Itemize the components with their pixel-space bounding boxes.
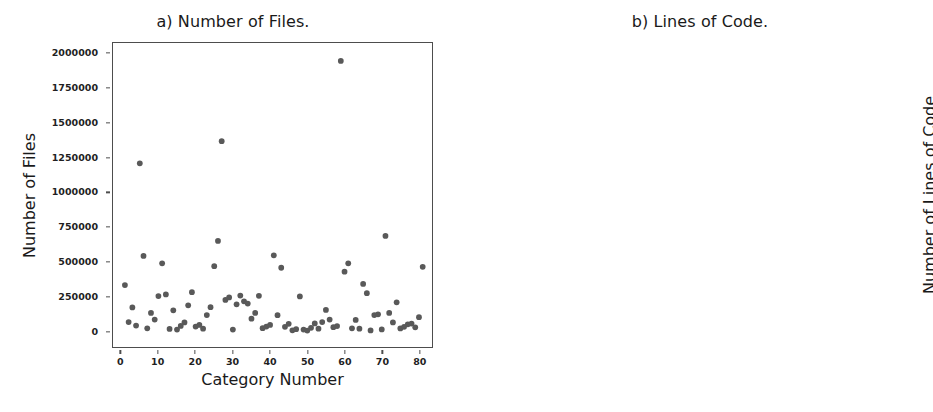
panel-a-number-of-files: a) Number of Files. 02500005000007500001… [0,0,466,412]
scatter-point [256,293,262,299]
y-tick-mark [106,261,110,262]
y-tick-mark [106,52,110,53]
y-tick-mark [106,227,110,228]
x-tick-mark [382,350,383,354]
scatter-point [345,260,351,266]
scatter-point [420,264,426,270]
scatter-point [349,325,355,331]
x-tick-label: 30 [226,357,239,367]
scatter-point [275,312,281,318]
scatter-point [208,304,214,310]
scatter-point [368,328,374,334]
scatter-point [416,314,422,320]
x-tick-label: 40 [263,357,276,367]
scatter-point [144,325,150,331]
x-tick-mark [194,350,195,354]
scatter-point [375,311,381,317]
scatter-point [182,320,188,326]
scatter-point [133,323,139,329]
panel-a-y-axis-label: Number of Files [22,133,38,258]
scatter-point [215,238,221,244]
scatter-point [226,295,232,301]
x-tick-mark [344,350,345,354]
scatter-point [390,320,396,326]
scatter-point [126,319,132,325]
y-tick-label: 0 [91,327,98,337]
x-tick-mark [120,350,121,354]
scatter-point [156,293,162,299]
scatter-point [278,265,284,271]
y-tick-label: 1000000 [52,188,98,198]
scatter-point [342,269,348,275]
x-tick-label: 0 [117,357,124,367]
x-tick-label: 20 [189,357,202,367]
scatter-point [200,326,206,332]
x-tick-label: 10 [151,357,164,367]
scatter-point [383,233,389,239]
panel-b-title: b) Lines of Code. [467,12,933,31]
scatter-point [327,317,333,323]
scatter-point [293,326,299,332]
scatter-point [185,302,191,308]
scatter-point [219,138,225,144]
panel-a-x-axis-label: Category Number [112,372,433,388]
scatter-point [297,294,303,300]
scatter-point [379,327,385,333]
scatter-point [159,260,165,266]
scatter-point [286,321,292,327]
scatter-point [234,301,240,307]
scatter-point [319,319,325,325]
scatter-point [237,293,243,299]
y-tick-label: 1500000 [52,118,98,128]
y-tick-label: 500000 [58,257,98,267]
scatter-point [271,252,277,258]
y-tick-label: 1250000 [52,153,98,163]
y-tick-mark [106,192,110,193]
scatter-point [137,160,143,166]
scatter-point [412,324,418,330]
y-tick-mark [106,296,110,297]
scatter-point [334,323,340,329]
scatter-point [316,326,322,332]
x-tick-mark [307,350,308,354]
y-tick-mark [106,122,110,123]
scatter-point [252,310,258,316]
x-tick-label: 70 [376,357,389,367]
y-tick-mark [106,331,110,332]
scatter-point [386,310,392,316]
scatter-point [353,317,359,323]
x-tick-mark [157,350,158,354]
scatter-point [129,305,135,311]
scatter-point [245,301,251,307]
panel-a-axes-frame [112,42,433,348]
panel-b-y-axis-label: Number of Lines of Code [922,96,933,294]
scatter-point [163,292,169,298]
panel-a-y-tick-labels: 0250000500000750000100000012500001500000… [36,42,106,348]
panel-a-title: a) Number of Files. [0,12,466,31]
scatter-point [357,326,363,332]
scatter-point [141,253,147,259]
y-tick-label: 1750000 [52,83,98,93]
scatter-point [364,290,370,296]
scatter-point [360,281,366,287]
scatter-point [204,312,210,318]
scatter-point [170,307,176,313]
x-tick-mark [419,350,420,354]
scatter-point [167,326,173,332]
scatter-point [249,316,255,322]
scatter-point [148,310,154,316]
y-tick-mark [106,87,110,88]
scatter-point [267,322,273,328]
x-tick-label: 60 [338,357,351,367]
scatter-point [189,289,195,295]
x-tick-mark [269,350,270,354]
scatter-point [323,307,329,313]
panel-a-scatter-points [113,43,432,347]
scatter-point [312,321,318,327]
y-tick-label: 750000 [58,222,98,232]
panel-b-lines-of-code: b) Lines of Code. 0100020003000400050006… [467,0,933,412]
x-tick-label: 50 [301,357,314,367]
y-tick-label: 250000 [58,292,98,302]
scatter-point [230,327,236,333]
scatter-point [211,263,217,269]
